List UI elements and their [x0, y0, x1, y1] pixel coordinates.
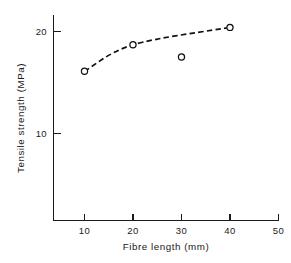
x-tick-label-40: 40: [224, 225, 235, 236]
x-tick-label-30: 30: [176, 225, 187, 236]
y-tick-label-10: 10: [36, 128, 47, 139]
y-axis-ticks: [54, 32, 62, 134]
data-point-marker-40mm: [227, 24, 233, 30]
trend-curve-dashed: [85, 27, 231, 71]
axes-group: [53, 15, 279, 221]
x-tick-label-50: 50: [273, 225, 284, 236]
x-axis-title: Fibre length (mm): [123, 241, 210, 252]
x-tick-label-20: 20: [127, 225, 138, 236]
tensile-strength-vs-fibre-length-chart: 20 10 10 20 30 40 50 Fibre length (mm) T…: [0, 0, 291, 263]
x-tick-label-10: 10: [79, 225, 90, 236]
x-axis-ticks: [85, 214, 279, 221]
y-axis-tick-labels: 20 10: [36, 26, 47, 139]
y-axis-title: Tensile strength (MPa): [15, 63, 26, 173]
data-point-marker-30mm: [178, 54, 184, 60]
data-point-markers: [81, 24, 233, 74]
data-point-marker-20mm: [130, 42, 136, 48]
x-axis-tick-labels: 10 20 30 40 50: [79, 225, 284, 236]
data-point-marker-10mm: [81, 68, 87, 74]
y-tick-label-20: 20: [36, 26, 47, 37]
chart-figure: 20 10 10 20 30 40 50 Fibre length (mm) T…: [0, 0, 291, 263]
